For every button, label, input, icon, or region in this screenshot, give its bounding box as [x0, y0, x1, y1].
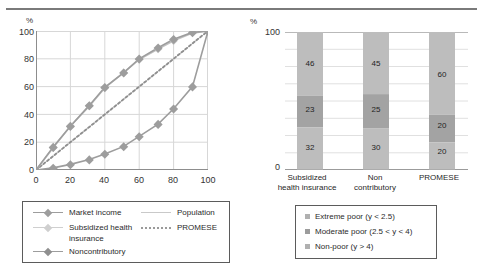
bar3-bottom-value: 20	[435, 147, 449, 156]
promese-dotted-line-icon	[141, 223, 171, 232]
left-chart-legend: Market income Subsidized health insuranc…	[22, 201, 230, 263]
right-y-unit: %	[250, 17, 257, 26]
legend-label-population: Population	[177, 208, 215, 217]
legend-item-non-poor[interactable]: Non-poor (y > 4)	[305, 242, 373, 251]
bar3-top-value: 60	[435, 70, 449, 79]
bar2-bottom-value: 30	[369, 143, 383, 152]
bar1-mid-value: 23	[303, 105, 317, 114]
bar2-mid-value: 25	[369, 105, 383, 114]
legend-item-promese[interactable]: PROMESE	[141, 223, 217, 232]
series-subsidized-markers	[49, 36, 178, 152]
bar-category-3-line1: PROMESE	[403, 173, 475, 183]
bar-category-3: PROMESE	[403, 173, 475, 183]
left-ytick-40: 40	[12, 110, 34, 120]
legend-label-subsidized-line2-row: insurance	[69, 234, 104, 243]
legend-label-extreme-poor: Extreme poor (y < 2.5)	[315, 212, 395, 221]
subsidized-line-icon	[33, 223, 63, 232]
left-xtick-100: 100	[197, 175, 219, 185]
left-xtick-0: 0	[27, 175, 45, 185]
legend-item-population[interactable]: Population	[141, 208, 215, 217]
left-y-unit: %	[26, 16, 33, 25]
population-line-icon	[141, 208, 171, 217]
right-chart-legend: Extreme poor (y < 2.5) Moderate poor (2.…	[295, 205, 437, 259]
legend-label-non-poor: Non-poor (y > 4)	[315, 242, 373, 251]
bar-category-2-line2: contributory	[335, 183, 415, 193]
left-ytick-100: 100	[12, 27, 34, 37]
left-xtick-40: 40	[95, 175, 113, 185]
bar1-bottom-value: 32	[303, 143, 317, 152]
left-ytick-60: 60	[12, 82, 34, 92]
figure-root: % 100 80 60 40 20 0 0 20 40 60 80 100	[0, 0, 483, 279]
legend-label-subsidized-line2: insurance	[69, 234, 104, 243]
legend-label-moderate-poor: Moderate poor (2.5 < y < 4)	[315, 227, 412, 236]
market-income-line-icon	[33, 208, 63, 217]
left-xtick-80: 80	[164, 175, 182, 185]
left-chart-panel: % 100 80 60 40 20 0 0 20 40 60 80 100	[0, 14, 240, 194]
left-xtick-20: 20	[61, 175, 79, 185]
noncontributory-line-icon	[33, 247, 63, 256]
left-xtick-60: 60	[130, 175, 148, 185]
extreme-poor-swatch-icon	[305, 214, 310, 219]
legend-item-subsidized-health-insurance[interactable]: Subsidized health	[33, 223, 132, 232]
right-ytick-100: 100	[254, 27, 280, 37]
legend-label-market-income: Market income	[69, 208, 121, 217]
legend-item-noncontributory[interactable]: Noncontributory	[33, 247, 125, 256]
legend-label-subsidized-line1: Subsidized health	[69, 223, 132, 232]
left-ytick-80: 80	[12, 54, 34, 64]
legend-item-moderate-poor[interactable]: Moderate poor (2.5 < y < 4)	[305, 227, 412, 236]
legend-item-extreme-poor[interactable]: Extreme poor (y < 2.5)	[305, 212, 395, 221]
bar2-top-value: 45	[369, 59, 383, 68]
concentration-curves-svg	[36, 31, 208, 170]
right-ytick-0: 0	[254, 162, 280, 172]
top-rule	[6, 8, 477, 10]
left-ytick-20: 20	[12, 137, 34, 147]
left-plot-area	[36, 31, 208, 170]
legend-label-noncontributory: Noncontributory	[69, 247, 125, 256]
moderate-poor-swatch-icon	[305, 229, 310, 234]
legend-label-promese: PROMESE	[177, 223, 217, 232]
legend-item-market-income[interactable]: Market income	[33, 208, 121, 217]
right-chart-panel: % 100 0	[240, 14, 483, 194]
right-plot-area: 46 23 32 45 25 30 60 20 20	[285, 32, 468, 170]
left-ytick-0: 0	[12, 165, 34, 175]
bar1-top-value: 46	[303, 59, 317, 68]
bar3-mid-value: 20	[435, 121, 449, 130]
non-poor-swatch-icon	[305, 244, 310, 249]
